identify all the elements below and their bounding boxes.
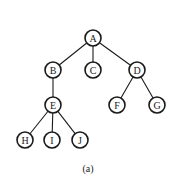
tree-node-d: D bbox=[129, 62, 145, 78]
tree-edges bbox=[30, 43, 153, 134]
tree-nodes: ABCDEFGHIJ bbox=[17, 30, 165, 148]
tree-node-c: C bbox=[85, 62, 101, 78]
edge-a-d bbox=[99, 43, 130, 66]
tree-node-b: B bbox=[45, 62, 61, 78]
edge-e-i bbox=[52, 113, 53, 132]
edge-a-b bbox=[59, 43, 87, 65]
tree-node-a: A bbox=[85, 30, 101, 46]
node-label: H bbox=[21, 135, 28, 146]
tree-node-i: I bbox=[44, 132, 60, 148]
node-label: C bbox=[90, 65, 97, 76]
edge-e-h bbox=[30, 111, 48, 134]
node-label: F bbox=[114, 100, 120, 111]
node-label: A bbox=[89, 33, 97, 44]
node-label: G bbox=[153, 100, 160, 111]
tree-node-j: J bbox=[72, 132, 88, 148]
node-label: D bbox=[133, 65, 140, 76]
node-label: I bbox=[50, 135, 53, 146]
tree-node-e: E bbox=[45, 97, 61, 113]
diagram-caption: (a) bbox=[82, 163, 93, 175]
edge-d-f bbox=[121, 77, 133, 98]
tree-node-h: H bbox=[17, 132, 33, 148]
tree-node-f: F bbox=[109, 97, 125, 113]
edge-d-g bbox=[141, 77, 153, 98]
node-label: J bbox=[78, 135, 82, 146]
edge-e-j bbox=[58, 111, 75, 133]
tree-diagram: ABCDEFGHIJ (a) bbox=[0, 0, 176, 184]
node-label: B bbox=[50, 65, 57, 76]
node-label: E bbox=[50, 100, 56, 111]
tree-node-g: G bbox=[149, 97, 165, 113]
